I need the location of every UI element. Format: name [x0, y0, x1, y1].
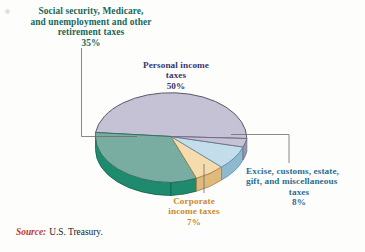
label-social-pct: 35% [6, 38, 176, 49]
label-excise-customs: Excise, customs, estate, gift, and misce… [246, 166, 364, 207]
source-note: Source:U.S. Treasury. [16, 227, 103, 237]
label-personal-line2: taxes [166, 70, 186, 80]
pie-chart-figure: Social security, Medicare, and unemploym… [0, 0, 365, 252]
label-excise-pct: 8% [246, 197, 352, 207]
label-corporate-pct: 7% [148, 217, 240, 227]
label-personal-pct: 50% [128, 81, 224, 91]
label-corporate-line1: Corporate [173, 196, 215, 206]
pie-slice-personal [96, 93, 247, 139]
source-value: U.S. Treasury. [49, 227, 103, 237]
label-social-line1: Social security, Medicare, [38, 6, 143, 16]
label-excise-line2: gift, and miscellaneous [246, 176, 337, 186]
source-label: Source: [16, 227, 46, 237]
pie-top-faces [95, 93, 246, 183]
label-excise-line3: taxes [246, 187, 352, 197]
label-corporate-line2: income taxes [168, 206, 219, 216]
label-social-line3: retirement taxes [58, 27, 125, 37]
label-social-security: Social security, Medicare, and unemploym… [6, 6, 176, 48]
label-personal-income: Personal income taxes 50% [128, 60, 224, 91]
label-excise-line1: Excise, customs, estate, [246, 166, 339, 176]
label-corporate-income: Corporate income taxes 7% [148, 196, 240, 227]
label-social-line2: and unemployment and other [30, 17, 151, 27]
label-personal-line1: Personal income [143, 60, 209, 70]
